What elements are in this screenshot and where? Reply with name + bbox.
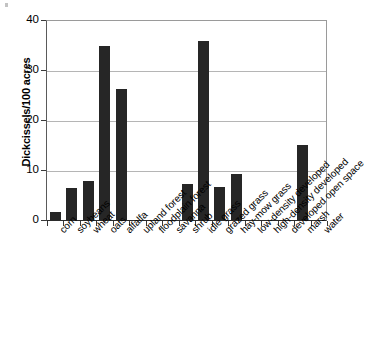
- x-tick: [162, 221, 163, 226]
- y-tick-label-20: 20: [0, 114, 39, 126]
- x-tick: [294, 221, 295, 226]
- y-tick-10: [41, 170, 46, 171]
- bar-grazed-grass: [214, 187, 225, 221]
- x-tick: [212, 221, 213, 226]
- x-tick: [278, 221, 279, 226]
- x-tick: [311, 221, 312, 226]
- bar-shrub: [182, 184, 193, 220]
- bar-soybeans: [66, 188, 77, 221]
- x-tick: [146, 221, 147, 226]
- bar-hay-mow-grass: [231, 174, 242, 220]
- bar-alfalfa: [116, 89, 127, 220]
- bar-idle-grass: [198, 41, 209, 220]
- y-tick-label-0: 0: [0, 214, 39, 226]
- bar-oats: [99, 46, 110, 220]
- y-tick-label-10: 10: [0, 164, 39, 176]
- x-tick: [245, 221, 246, 226]
- y-tick-40: [41, 20, 46, 21]
- x-tick: [327, 221, 328, 226]
- y-tick-20: [41, 120, 46, 121]
- bars-layer: [47, 20, 327, 220]
- x-tick: [113, 221, 114, 226]
- y-tick-label-30: 30: [0, 64, 39, 76]
- bar-marsh: [297, 145, 308, 220]
- x-tick: [261, 221, 262, 226]
- x-tick: [63, 221, 64, 226]
- x-tick: [129, 221, 130, 226]
- x-tick: [228, 221, 229, 226]
- x-tick: [80, 221, 81, 226]
- y-tick-0: [41, 220, 46, 221]
- scan-artifact-speck: [5, 3, 8, 7]
- x-tick: [195, 221, 196, 226]
- y-tick-label-40: 40: [0, 14, 39, 26]
- bar-corn: [50, 212, 61, 220]
- x-axis-ticks: [47, 221, 327, 226]
- bar-wheat: [83, 181, 94, 221]
- x-tick: [179, 221, 180, 226]
- x-tick: [47, 221, 48, 226]
- y-tick-30: [41, 70, 46, 71]
- x-tick: [96, 221, 97, 226]
